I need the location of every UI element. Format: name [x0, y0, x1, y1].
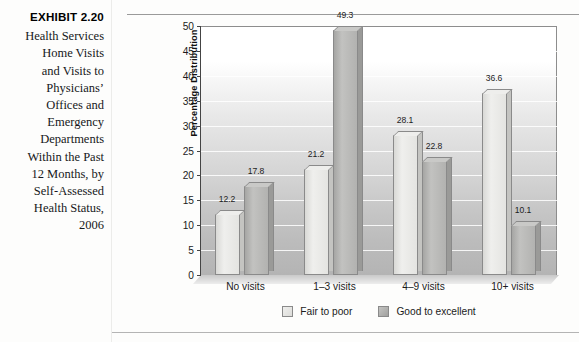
y-tick-mark [197, 51, 201, 52]
bar: 10.1 [511, 225, 536, 275]
legend-swatch [282, 306, 293, 317]
y-tick-label: 10 [183, 220, 194, 231]
bar-front-face [511, 225, 536, 275]
chart-legend: Fair to poorGood to excellent [201, 306, 557, 317]
column-divider [111, 0, 112, 342]
bar-front-face [422, 161, 447, 275]
y-tick-label: 0 [188, 270, 194, 281]
y-tick-label: 15 [183, 195, 194, 206]
bar-value-label: 17.8 [248, 166, 265, 176]
y-tick-mark [197, 76, 201, 77]
bar-value-label: 21.2 [308, 149, 325, 159]
legend-swatch [378, 306, 389, 317]
bar-chart: Percentage Distribution 0510152025303540… [127, 18, 571, 318]
gridline [201, 51, 557, 52]
y-tick-label: 35 [183, 95, 194, 106]
bar-front-face [215, 214, 240, 275]
y-tick-mark [197, 26, 201, 27]
bar: 22.8 [422, 161, 447, 275]
exhibit-number: EXHIBIT 2.20 [0, 8, 104, 25]
bar-top-face [393, 131, 424, 136]
y-tick-mark [197, 275, 201, 276]
bar-top-face [511, 221, 542, 226]
y-tick-label: 30 [183, 120, 194, 131]
x-category-label: 1–3 visits [313, 281, 355, 292]
y-tick-mark [197, 175, 201, 176]
bar: 21.2 [304, 169, 329, 275]
y-tick-label: 50 [183, 21, 194, 32]
bar-front-face [244, 186, 269, 275]
bar-value-label: 10.1 [515, 205, 532, 215]
x-category-label: No visits [226, 281, 265, 292]
bar-top-face [482, 89, 513, 94]
legend-item: Good to excellent [378, 306, 475, 317]
y-tick-mark [197, 250, 201, 251]
legend-label: Fair to poor [300, 306, 352, 317]
bar-top-face [215, 210, 246, 215]
y-tick-label: 25 [183, 145, 194, 156]
exhibit-caption: EXHIBIT 2.20 Health Services Home Visits… [0, 8, 104, 235]
bar-side-face [536, 221, 541, 271]
bar: 36.6 [482, 93, 507, 275]
legend-label: Good to excellent [396, 306, 475, 317]
bottom-rule [112, 332, 579, 333]
bar-front-face [393, 135, 418, 275]
gridline [201, 76, 557, 77]
bar-value-label: 12.2 [219, 194, 236, 204]
exhibit-caption-text: Health Services Home Visits and Visits t… [0, 28, 104, 234]
bar-front-face [333, 30, 358, 276]
bar-value-label: 49.3 [337, 10, 354, 20]
x-category-label: 10+ visits [491, 281, 534, 292]
y-tick-mark [197, 200, 201, 201]
y-tick-mark [197, 126, 201, 127]
y-tick-label: 5 [188, 245, 194, 256]
bar-side-face [269, 182, 274, 271]
legend-item: Fair to poor [282, 306, 352, 317]
y-tick-mark [197, 101, 201, 102]
exhibit-page: EXHIBIT 2.20 Health Services Home Visits… [0, 0, 579, 342]
bar: 49.3 [333, 30, 358, 276]
y-tick-label: 45 [183, 45, 194, 56]
bar-front-face [304, 169, 329, 275]
bar: 28.1 [393, 135, 418, 275]
y-tick-label: 20 [183, 170, 194, 181]
x-category-label: 4–9 visits [402, 281, 444, 292]
bar-side-face [447, 157, 452, 271]
y-tick-mark [197, 151, 201, 152]
bar-value-label: 22.8 [426, 141, 443, 151]
y-tick-label: 40 [183, 70, 194, 81]
bar-value-label: 28.1 [397, 115, 414, 125]
bar-value-label: 36.6 [486, 73, 503, 83]
bar-side-face [358, 26, 363, 272]
bar: 17.8 [244, 186, 269, 275]
bar-front-face [482, 93, 507, 275]
bar: 12.2 [215, 214, 240, 275]
bar-top-face [333, 26, 364, 31]
plot-area: 05101520253035404550 12.217.821.249.328.… [201, 26, 557, 275]
y-tick-mark [197, 225, 201, 226]
